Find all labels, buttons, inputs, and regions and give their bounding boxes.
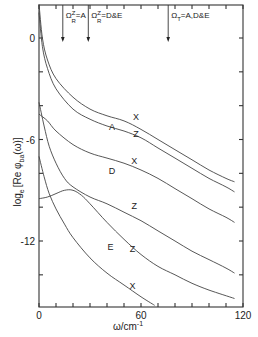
curve-label: Z bbox=[130, 244, 136, 254]
annotation-label: ΩT=A,D&E bbox=[171, 11, 209, 22]
curve-label: A bbox=[109, 122, 115, 132]
y-axis-label: loge[Re φba(ω)] bbox=[12, 137, 25, 206]
curve-label: X bbox=[133, 112, 139, 122]
arrow-head-icon bbox=[61, 37, 65, 42]
y-tick-label: -6 bbox=[26, 135, 35, 146]
frequency-annotations: ΩZR=AΩZR=D&EΩT=A,D&E bbox=[61, 5, 210, 42]
data-curves bbox=[39, 4, 235, 305]
curve-label: Z bbox=[133, 129, 139, 139]
axis-labels: ω/cm-1 loge[Re φba(ω)] bbox=[12, 137, 143, 332]
curve-label: E bbox=[107, 242, 113, 252]
curve-label: D bbox=[109, 166, 116, 176]
curve-label: X bbox=[129, 281, 135, 291]
x-axis-label: ω/cm-1 bbox=[113, 320, 143, 332]
chart-plot: 0601200-6-12 XAZDXZEZX ΩZR=AΩZR=D&EΩT=A,… bbox=[0, 0, 258, 337]
y-tick-label: -12 bbox=[21, 236, 36, 247]
curve-e-x bbox=[39, 156, 155, 305]
curve-labels: XAZDXZEZX bbox=[107, 112, 139, 291]
x-tick-label: 120 bbox=[235, 310, 252, 321]
annotation-label: ΩZR=A bbox=[66, 10, 87, 24]
arrow-head-icon bbox=[166, 37, 170, 42]
annotation-label: ΩZR=D&E bbox=[91, 10, 122, 24]
y-tick-label: 0 bbox=[29, 33, 35, 44]
arrow-head-icon bbox=[87, 37, 91, 42]
curve-label: Z bbox=[131, 201, 137, 211]
curve-label: X bbox=[131, 156, 137, 166]
x-tick-label: 0 bbox=[36, 310, 42, 321]
